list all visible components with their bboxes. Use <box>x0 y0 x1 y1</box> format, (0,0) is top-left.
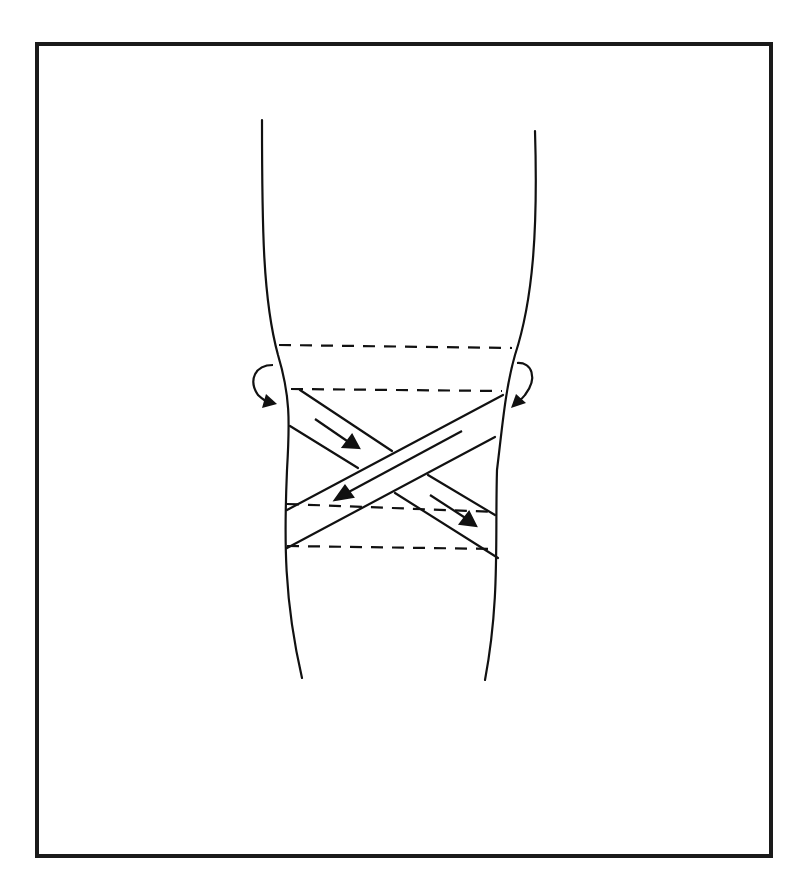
arrow-line-a2 <box>430 495 467 519</box>
knee-taping-diagram <box>0 0 809 882</box>
arrow-head-down-left-icon <box>335 486 353 500</box>
anchor-line-2 <box>291 389 502 391</box>
arrow-head-down-right-icon <box>343 435 359 448</box>
wrap-arrow-right <box>517 363 532 401</box>
arrow-line-a1 <box>315 419 350 443</box>
wrap-arrow-head-left-icon <box>262 394 277 408</box>
wrap-arrow-left <box>253 365 273 402</box>
leg-outline-right <box>485 131 536 680</box>
arrow-head-down-right-icon <box>460 512 476 526</box>
anchor-line-1 <box>279 345 512 348</box>
anchor-line-3 <box>287 504 497 512</box>
anchor-line-4 <box>287 546 497 549</box>
